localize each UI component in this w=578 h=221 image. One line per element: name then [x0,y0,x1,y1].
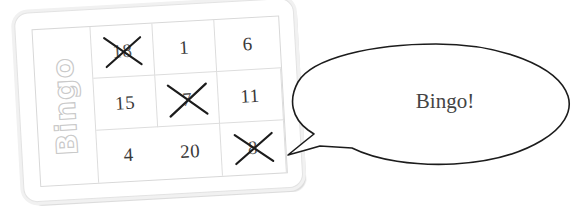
bingo-cell-value: 20 [179,140,200,163]
bingo-cell-value: 8 [247,137,258,160]
bingo-label-cell: Bingo [33,27,100,186]
bingo-cell[interactable]: 18 [90,23,155,78]
bingo-cell[interactable]: 20 [158,124,223,179]
speech-bubble[interactable]: Bingo! [286,38,578,178]
bingo-cell-value: 4 [123,144,134,167]
bingo-cell-value: 7 [182,88,193,111]
bingo-cell[interactable]: 6 [214,16,281,71]
card-surface: Bingo 18 1 6 15 [14,0,304,203]
speech-bubble-text: Bingo! [286,38,578,164]
bingo-cell-value: 11 [240,84,260,107]
bingo-cell-value: 15 [115,91,136,114]
bingo-card[interactable]: Bingo 18 1 6 15 [13,0,314,217]
bingo-cell[interactable]: 4 [96,127,161,182]
bingo-cell[interactable]: 1 [152,20,217,75]
bingo-cell-value: 1 [179,36,190,59]
bingo-cell[interactable]: 8 [220,120,287,175]
bingo-grid: Bingo 18 1 6 15 [31,15,287,187]
bingo-cell[interactable]: 11 [217,68,284,123]
bingo-title-text: Bingo [46,56,85,156]
bingo-cell-value: 18 [112,39,133,62]
bingo-cell[interactable]: 15 [93,75,158,130]
bingo-cell[interactable]: 7 [155,72,220,127]
scene-canvas: Bingo 18 1 6 15 [0,0,578,221]
bingo-cell-value: 6 [242,32,253,55]
